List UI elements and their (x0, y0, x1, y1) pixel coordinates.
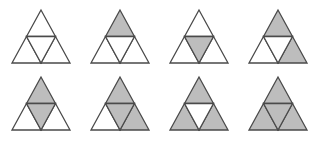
top-subtriangle (185, 10, 214, 37)
triangle-figure-6 (91, 77, 149, 130)
triangle-figure-3 (170, 10, 228, 63)
top-subtriangle (27, 10, 56, 37)
triangle-figure-7 (170, 77, 228, 130)
triangle-figure-2 (91, 10, 149, 63)
triangle-figures-canvas (0, 0, 319, 147)
triangle-pattern-diagram (0, 0, 319, 147)
triangle-figure-5 (12, 77, 70, 130)
top-subtriangle (106, 77, 135, 104)
top-subtriangle (264, 77, 293, 104)
top-subtriangle (185, 77, 214, 104)
triangle-figure-8 (249, 77, 307, 130)
top-subtriangle (106, 10, 135, 37)
top-subtriangle (27, 77, 56, 104)
triangle-figure-1 (12, 10, 70, 63)
triangle-figure-4 (249, 10, 307, 63)
top-subtriangle (264, 10, 293, 37)
